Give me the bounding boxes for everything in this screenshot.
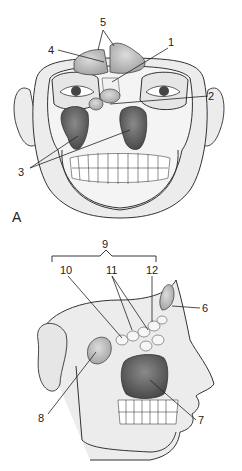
label-11: 11: [106, 264, 117, 276]
frontal-sinus-right: [110, 43, 145, 73]
label-4: 4: [48, 44, 54, 56]
frontal-teeth: [70, 153, 170, 184]
label-2: 2: [208, 90, 214, 102]
frontal-sinus-left: [74, 50, 108, 75]
lateral-teeth: [118, 400, 178, 424]
label-12: 12: [146, 264, 158, 276]
right-pupil: [159, 86, 169, 96]
sinus-anatomy-diagram: 5 4 1 2 3 A 9: [0, 0, 242, 471]
label-10: 10: [60, 264, 72, 276]
sphenoid-sinus: [100, 89, 120, 103]
label-5: 5: [100, 16, 106, 28]
label-7: 7: [198, 414, 204, 426]
label-8: 8: [38, 412, 44, 424]
panel-label-a: A: [12, 209, 22, 225]
label-3: 3: [18, 166, 24, 178]
left-pupil: [71, 86, 81, 96]
label-6: 6: [202, 302, 208, 314]
label-9: 9: [102, 238, 108, 250]
label-1: 1: [168, 36, 174, 48]
maxillary-sinus-lateral: [121, 355, 168, 399]
lateral-view: 9: [38, 238, 214, 460]
nasal-area: [89, 98, 103, 110]
bracket-9: [52, 250, 156, 262]
frontal-view: 5 4 1 2 3 A: [12, 16, 224, 225]
